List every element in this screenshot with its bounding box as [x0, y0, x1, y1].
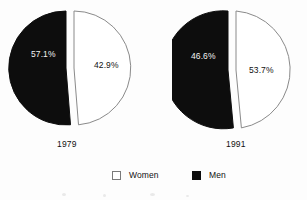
pie-1991-graphic — [172, 8, 304, 134]
pie-1979-label-men: 57.1% — [31, 49, 56, 59]
scan-artifact — [150, 193, 155, 196]
legend-swatch-men-icon — [192, 171, 201, 180]
scan-artifact — [103, 194, 106, 197]
legend-label-women: Women — [129, 170, 159, 180]
pie-1979-label-women: 42.9% — [94, 60, 119, 70]
legend-item-men: Men — [192, 169, 226, 181]
pie-chart-1991: 46.6% 53.7% — [172, 8, 304, 138]
pie-chart-1979: 57.1% 42.9% — [8, 8, 148, 138]
legend-label-men: Men — [209, 170, 226, 180]
pie-1991-year-label: 1991 — [226, 139, 246, 149]
pie-chart-figure: 57.1% 42.9% 1979 46.6% 53.7% 1991 Women … — [0, 0, 307, 200]
legend-swatch-women-icon — [112, 171, 121, 180]
pie-1991-label-men: 46.6% — [191, 51, 216, 61]
pie-1979-slice-men — [9, 11, 71, 125]
chart-legend: Women Men — [0, 169, 307, 185]
pie-1991-slice-men — [172, 11, 233, 129]
scan-artifact — [62, 193, 66, 196]
legend-item-women: Women — [112, 169, 159, 181]
pie-1979-year-label: 1979 — [57, 139, 77, 149]
pie-1991-label-women: 53.7% — [249, 65, 274, 75]
pie-1979-graphic — [8, 8, 148, 130]
scan-artifact — [186, 195, 189, 197]
